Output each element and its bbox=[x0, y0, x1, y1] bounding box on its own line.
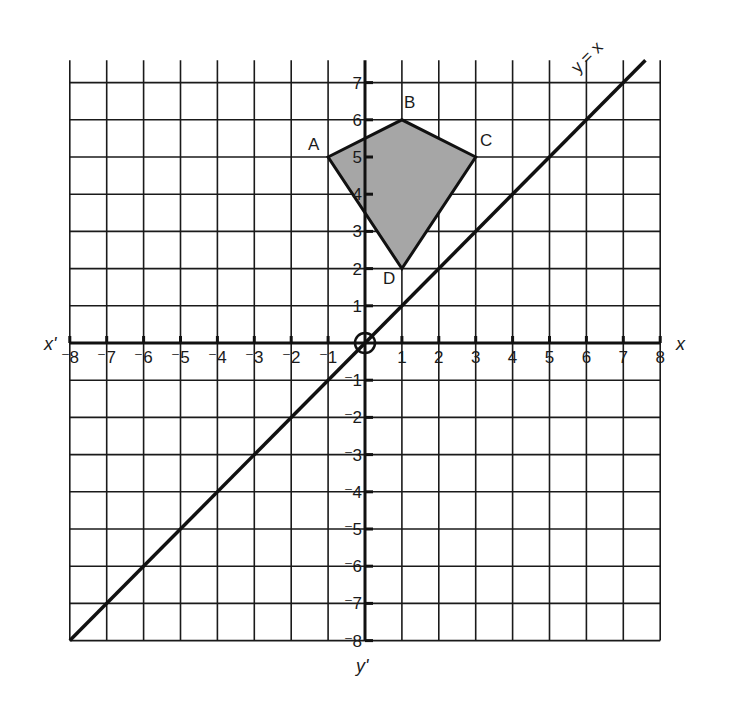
y-tick-label: 6 bbox=[353, 111, 362, 130]
x-tick-label: 8 bbox=[655, 348, 664, 367]
y-tick-label: ⁻7 bbox=[344, 594, 362, 613]
x-tick-label: 7 bbox=[619, 348, 628, 367]
y-tick-label: ⁻5 bbox=[344, 520, 362, 539]
x-tick-label: ⁻2 bbox=[282, 348, 300, 367]
x-tick-label: ⁻8 bbox=[61, 348, 79, 367]
y-tick-label: ⁻2 bbox=[344, 408, 362, 427]
y-tick-label: ⁻3 bbox=[344, 446, 362, 465]
y-tick-label: ⁻1 bbox=[344, 371, 362, 390]
vertex-label-b: B bbox=[404, 93, 415, 112]
x-tick-label: 4 bbox=[508, 348, 517, 367]
x-axis-neg-label: x' bbox=[43, 334, 57, 354]
y-tick-label: 3 bbox=[353, 222, 362, 241]
x-tick-label: 6 bbox=[582, 348, 591, 367]
y-tick-label: ⁻4 bbox=[344, 483, 362, 502]
vertex-label-d: D bbox=[383, 269, 395, 288]
x-tick-label: ⁻6 bbox=[134, 348, 152, 367]
y-tick-label: 7 bbox=[353, 74, 362, 93]
x-tick-label: ⁻4 bbox=[208, 348, 226, 367]
y-tick-label: ⁻8 bbox=[344, 632, 362, 651]
y-axis-neg-label: y' bbox=[354, 656, 369, 676]
x-tick-label: 2 bbox=[434, 348, 443, 367]
x-tick-label: 5 bbox=[545, 348, 554, 367]
x-tick-label: ⁻1 bbox=[319, 348, 337, 367]
x-tick-label: ⁻7 bbox=[97, 348, 115, 367]
x-tick-label: 3 bbox=[471, 348, 480, 367]
y-tick-label: 5 bbox=[353, 148, 362, 167]
vertex-label-c: C bbox=[480, 131, 492, 150]
x-tick-label: 1 bbox=[397, 348, 406, 367]
x-tick-label: ⁻3 bbox=[245, 348, 263, 367]
y-tick-label: ⁻6 bbox=[344, 557, 362, 576]
y-tick-label: 4 bbox=[353, 185, 362, 204]
coordinate-graph: ⁻8⁻7⁻6⁻5⁻4⁻3⁻2⁻112345678⁻8⁻7⁻6⁻5⁻4⁻3⁻2⁻1… bbox=[0, 0, 730, 714]
x-axis-label: x bbox=[675, 334, 686, 354]
y-tick-label: 2 bbox=[353, 260, 362, 279]
vertex-label-a: A bbox=[308, 135, 320, 154]
y-tick-label: 1 bbox=[353, 297, 362, 316]
x-tick-label: ⁻5 bbox=[171, 348, 189, 367]
